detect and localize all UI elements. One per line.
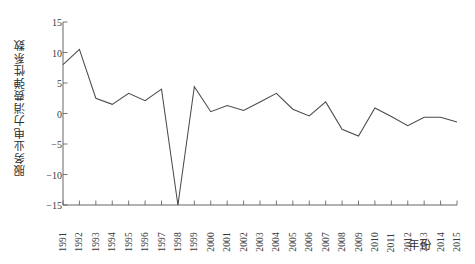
x-axis-title: 年份 xyxy=(408,236,431,252)
x-axis-tick-label: 1992 xyxy=(74,232,84,252)
chart-container: 服务业电力消费弹性系数 151050−5−10−15 1991199219931… xyxy=(0,0,475,264)
x-axis-tick-label: 2005 xyxy=(288,232,298,252)
x-axis-tick-label: 1998 xyxy=(173,232,183,252)
x-axis-tick-label: 2006 xyxy=(304,232,314,252)
x-axis-tick-label: 2015 xyxy=(452,232,462,252)
x-axis-tick-label: 1994 xyxy=(107,232,117,252)
x-axis-tick-label: 1999 xyxy=(189,232,199,252)
x-axis-tick-label: 1995 xyxy=(124,232,134,252)
axes-group xyxy=(63,22,457,205)
x-axis-tick-label: 2011 xyxy=(386,233,396,252)
x-axis-tick-label: 2002 xyxy=(239,232,249,252)
x-axis-tick-label: 2003 xyxy=(255,232,265,252)
x-axis-tick-label: 2007 xyxy=(321,232,331,252)
x-axis-tick-label: 2014 xyxy=(436,232,446,252)
x-axis-tick-label: 1993 xyxy=(91,232,101,252)
x-axis-tick-label: 2010 xyxy=(370,232,380,252)
x-axis-tick-label: 2009 xyxy=(354,232,364,252)
x-axis-tick-label: 2008 xyxy=(337,232,347,252)
x-axis-tick-label: 2000 xyxy=(206,232,216,252)
x-axis-tick-label: 1996 xyxy=(140,232,150,252)
x-axis-tick-label: 2001 xyxy=(222,232,232,252)
x-axis-tick-labels: 1991199219931994199519961997199819992000… xyxy=(0,206,475,252)
x-axis-tick-label: 1997 xyxy=(157,232,167,252)
series-line-elasticity-coefficient xyxy=(63,49,457,205)
x-axis-tick-label: 2004 xyxy=(271,232,281,252)
x-axis-tick-label: 1991 xyxy=(58,232,68,252)
